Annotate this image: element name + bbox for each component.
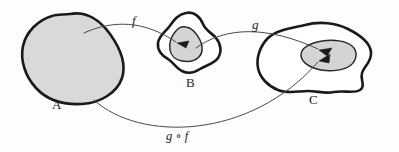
diagram-canvas bbox=[0, 0, 399, 152]
map-label-g-composed-f: g ∘ f bbox=[166, 130, 188, 143]
map-label-f: f bbox=[132, 14, 136, 27]
function-composition-figure: A B C f g g ∘ f bbox=[0, 0, 399, 152]
set-label-a: A bbox=[52, 98, 62, 111]
set-a-blob bbox=[22, 13, 124, 104]
set-label-c: C bbox=[309, 93, 318, 106]
map-label-g: g bbox=[252, 18, 259, 31]
set-label-b: B bbox=[186, 76, 195, 89]
